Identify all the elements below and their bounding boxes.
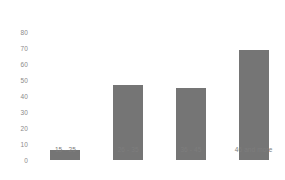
bar-46-and-more <box>239 50 269 160</box>
x-axis-tick-label: 36 - 45 <box>180 146 201 154</box>
y-axis-tick-label: 80 <box>2 29 28 36</box>
x-axis-tick-label: 46 and more <box>235 146 273 154</box>
bar-group: 15 - 25 26 - 35 36 - 45 46 and more <box>34 0 285 180</box>
y-axis-tick-label: 40 <box>2 93 28 100</box>
y-axis-tick-label: 60 <box>2 61 28 68</box>
y-axis-tick-label: 20 <box>2 125 28 132</box>
bar-slot: 36 - 45 <box>160 0 223 160</box>
bar-slot: 15 - 25 <box>34 0 97 160</box>
plot-area: 15 - 25 26 - 35 36 - 45 46 and more <box>34 0 285 180</box>
bar-chart: 80 70 60 50 40 30 20 10 0 15 - 25 26 - 3… <box>0 0 285 180</box>
y-axis-tick-label: 30 <box>2 109 28 116</box>
y-axis-tick-label: 0 <box>2 157 28 164</box>
y-axis-tick-label: 70 <box>2 45 28 52</box>
bar-slot: 26 - 35 <box>97 0 160 160</box>
bar-slot: 46 and more <box>222 0 285 160</box>
y-axis-tick-label: 50 <box>2 77 28 84</box>
y-axis-tick-label: 10 <box>2 141 28 148</box>
y-axis: 80 70 60 50 40 30 20 10 0 <box>0 0 34 180</box>
x-axis-tick-label: 26 - 35 <box>118 146 139 154</box>
x-axis-tick-label: 15 - 25 <box>55 146 76 154</box>
